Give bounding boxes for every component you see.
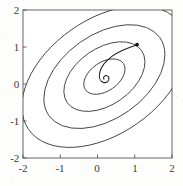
x-tick-label-minus-1: -1 — [51, 163, 69, 174]
y-tick-label-1: 1 — [1, 42, 19, 53]
scan-speck — [5, 33, 6, 34]
scan-speck — [12, 176, 13, 177]
contour-plot-figure: 2 1 0 -1 -2 -2 -1 0 1 2 — [0, 0, 183, 186]
y-tick-label-minus-1: -1 — [1, 116, 19, 127]
y-tick-label-0: 0 — [1, 79, 19, 90]
y-tick-label-2: 2 — [1, 5, 19, 16]
x-tick-label-minus-2: -2 — [14, 163, 32, 174]
x-tick-label-1: 1 — [126, 163, 144, 174]
x-tick-label-2: 2 — [163, 163, 181, 174]
scan-speck — [176, 96, 177, 97]
trajectory-start-marker — [135, 43, 139, 47]
plot-canvas — [0, 0, 183, 186]
x-tick-label-0: 0 — [88, 163, 106, 174]
